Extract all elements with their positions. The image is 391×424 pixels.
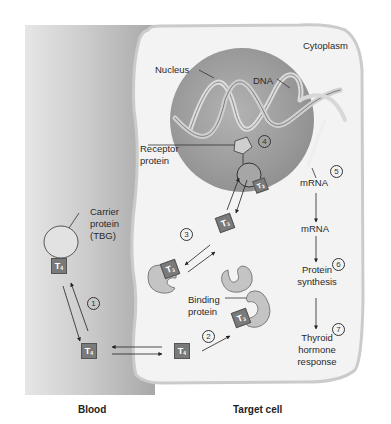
label-mrna-nuclear: mRNA xyxy=(300,177,328,188)
label-cytoplasm: Cytoplasm xyxy=(303,40,348,51)
label-nucleus: Nucleus xyxy=(155,64,189,75)
label-receptor-protein-1: Receptor xyxy=(140,143,179,154)
step-4: 4 xyxy=(258,135,271,148)
step-5: 5 xyxy=(330,165,343,178)
label-mrna-cytoplasm: mRNA xyxy=(301,223,329,234)
label-response-3: response xyxy=(290,356,344,367)
t4-in-blood: T4 xyxy=(81,343,97,359)
label-carrier-protein-2: protein xyxy=(90,218,119,229)
t4-on-carrier: T4 xyxy=(51,258,67,274)
label-blood: Blood xyxy=(78,404,106,415)
step-6: 6 xyxy=(332,258,345,271)
label-response-2: hormone xyxy=(293,344,341,355)
label-receptor-protein-2: protein xyxy=(140,155,169,166)
label-protein-synthesis-2: synthesis xyxy=(293,276,341,287)
carrier-protein xyxy=(44,226,78,258)
label-carrier-protein-1: Carrier xyxy=(90,206,119,217)
label-target-cell: Target cell xyxy=(233,404,282,415)
label-binding-protein-2: protein xyxy=(188,306,217,317)
label-binding-protein-1: Binding xyxy=(188,294,220,305)
step-2: 2 xyxy=(202,330,215,343)
t4-in-cell: T4 xyxy=(174,343,190,359)
step-3: 3 xyxy=(180,228,193,241)
step-1: 1 xyxy=(87,297,100,310)
label-dna: DNA xyxy=(253,75,273,86)
label-carrier-protein-3: (TBG) xyxy=(90,230,116,241)
step-7: 7 xyxy=(332,323,345,336)
